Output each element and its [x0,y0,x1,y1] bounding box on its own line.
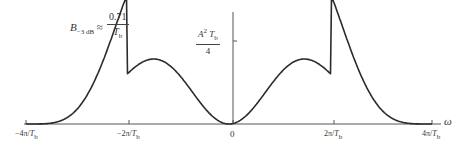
x-tick-label-neg4pi: −4π/Tb [15,130,38,141]
bandwidth-numerator: 0.71 [107,12,129,25]
x-tick-label-neg2pi: −2π/Tb [117,130,140,141]
bandwidth-sub: −3 dB [77,28,94,36]
psd-curve [26,0,432,124]
bandwidth-symbol: B [70,21,77,33]
y-tick-denominator: 4 [196,45,220,56]
x-tick-label-zero: 0 [230,130,235,139]
bandwidth-denominator: Tb [107,25,129,40]
y-tick-label: A2 Tb 4 [196,28,220,56]
x-tick-label-2pi: 2π/Tb [324,130,342,141]
bandwidth-fraction: 0.71 Tb [107,12,129,40]
approx-sign: ≈ [97,21,103,33]
y-tick-numerator: A2 Tb [196,28,220,45]
x-tick-label-4pi: 4π/Tb [422,130,440,141]
bandwidth-annotation: B−3 dB ≈ [70,22,103,36]
omega-axis-label: ω [444,116,452,127]
